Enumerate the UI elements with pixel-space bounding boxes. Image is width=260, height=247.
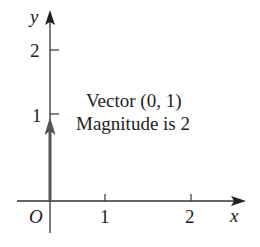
y-axis-label: y bbox=[28, 6, 39, 27]
annotation-magnitude: Magnitude is 2 bbox=[76, 113, 190, 134]
origin-label: O bbox=[29, 206, 43, 227]
y-axis bbox=[45, 10, 59, 233]
y-tick-label-2: 2 bbox=[30, 40, 40, 61]
x-tick-label-1: 1 bbox=[100, 206, 110, 227]
x-tick-label-2: 2 bbox=[185, 206, 195, 227]
vector-arrow bbox=[45, 117, 56, 201]
y-tick-label-1: 1 bbox=[32, 105, 42, 126]
vector-diagram: y x O 2 1 1 2 Vector (0, 1) Magnitude is… bbox=[0, 0, 260, 247]
annotation-vector: Vector (0, 1) bbox=[86, 90, 182, 112]
x-axis-label: x bbox=[229, 205, 239, 226]
